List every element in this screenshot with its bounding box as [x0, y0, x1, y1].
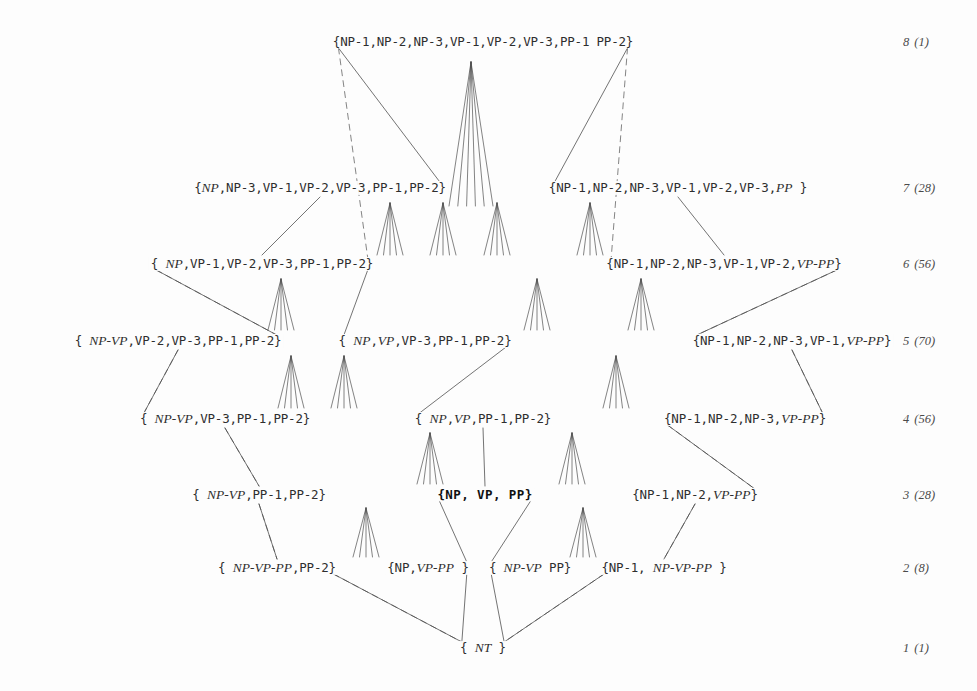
level-label: 6(56) — [903, 257, 935, 272]
lattice-edge — [483, 428, 485, 486]
fan-line — [497, 203, 510, 255]
lattice-node: {NP,VP-PP } — [385, 561, 470, 575]
fan-line — [430, 433, 437, 484]
lattice-node: { NT } — [458, 641, 508, 655]
level-number: 2 — [903, 561, 909, 575]
level-count: (28) — [914, 181, 935, 195]
fan-line — [635, 279, 642, 330]
level-number: 6 — [903, 257, 909, 271]
fan-line — [353, 508, 366, 557]
fan-line — [531, 279, 538, 330]
fan-line — [390, 203, 403, 255]
lattice-node: { NP,VP,VP-3,PP-1,PP-2} — [337, 334, 514, 348]
fan-line — [583, 508, 590, 557]
lattice-node: {NP-1,NP-2,NP-3,VP-1,VP-PP} — [691, 334, 894, 348]
fan-line — [590, 203, 597, 255]
fan-line — [390, 203, 397, 255]
lattice-node: { NP-VP,VP-3,PP-1,PP-2} — [138, 412, 312, 426]
level-number: 8 — [903, 35, 909, 49]
fan-line — [583, 508, 596, 557]
fan-bundle-layer — [268, 62, 654, 557]
level-count: (56) — [914, 257, 935, 271]
fan-line — [437, 203, 444, 255]
lattice-node: { NP-VP PP} — [487, 561, 573, 575]
lattice-node: { NP-VP-PP,PP-2} — [216, 561, 338, 575]
fan-line — [268, 279, 281, 330]
lattice-edge — [439, 501, 466, 562]
lattice-edge — [792, 350, 823, 413]
lattice-node: {NP-1,NP-2,VP-PP} — [630, 488, 759, 502]
level-count: (56) — [914, 412, 935, 426]
fan-line — [603, 356, 616, 408]
fan-line — [377, 203, 390, 255]
lattice-edge — [491, 501, 530, 562]
fan-line — [366, 508, 373, 557]
level-label: 1(1) — [903, 641, 929, 656]
fan-line — [366, 508, 379, 557]
lattice-node: { NP,VP-1,VP-2,VP-3,PP-1,PP-2} — [149, 257, 375, 271]
level-count: (1) — [914, 641, 929, 655]
fan-line — [417, 433, 430, 484]
lattice-edge — [338, 48, 439, 182]
level-label: 3(28) — [903, 488, 935, 503]
fan-line — [559, 433, 572, 484]
level-number: 4 — [903, 412, 909, 426]
lattice-edge — [697, 270, 837, 335]
lattice-edge — [225, 428, 259, 486]
lattice-edge — [344, 270, 368, 335]
lattice-node: {NP-1, NP-VP-PP } — [599, 561, 728, 575]
fan-line — [572, 433, 579, 484]
fan-line — [610, 356, 617, 408]
fan-line — [291, 356, 298, 408]
fan-line — [430, 433, 443, 484]
fan-line — [443, 203, 456, 255]
lattice-edge — [144, 350, 178, 413]
lattice-edge — [664, 504, 695, 559]
level-number: 1 — [903, 641, 909, 655]
fan-line — [275, 279, 282, 330]
level-label: 7(28) — [903, 181, 935, 196]
lattice-node: { NP-VP,VP-2,VP-3,PP-1,PP-2} — [73, 334, 284, 348]
fan-line — [577, 508, 584, 557]
fan-line — [572, 433, 585, 484]
fan-line — [616, 356, 623, 408]
lattice-node: {NP-1,NP-2,NP-3,VP-1,VP-2,VP-PP} — [604, 257, 843, 271]
lattice-edge — [504, 574, 604, 642]
level-number: 5 — [903, 334, 909, 348]
fan-line — [497, 203, 504, 255]
level-count: (1) — [914, 35, 929, 49]
fan-line — [570, 508, 583, 557]
fan-line — [616, 356, 629, 408]
lattice-edge — [491, 574, 504, 642]
fan-line — [537, 279, 550, 330]
level-number: 3 — [903, 488, 909, 502]
lattice-node: { NP,VP,PP-1,PP-2} — [413, 412, 553, 426]
level-count: (70) — [914, 334, 935, 348]
fan-line — [430, 203, 443, 255]
fan-line — [577, 203, 590, 255]
fan-line — [628, 279, 641, 330]
level-label: 5(70) — [903, 334, 935, 349]
lattice-edge — [678, 197, 724, 255]
fan-line — [344, 356, 357, 408]
lattice-edge — [462, 574, 467, 642]
fan-line — [424, 433, 431, 484]
fan-line — [291, 356, 304, 408]
level-count: (8) — [914, 561, 929, 575]
fan-line — [641, 279, 648, 330]
lattice-edge — [333, 574, 461, 642]
fan-line — [524, 279, 537, 330]
fan-line — [281, 279, 288, 330]
fan-line — [491, 203, 498, 255]
lattice-diagram: {NP-1,NP-2,NP-3,VP-1,VP-2,VP-3,PP-1 PP-2… — [0, 0, 977, 691]
fan-line — [281, 279, 294, 330]
fan-line — [278, 356, 291, 408]
fan-line — [537, 279, 544, 330]
lattice-edge — [262, 197, 320, 255]
lattice-edge — [420, 347, 507, 413]
fan-line — [331, 356, 344, 408]
fan-line — [641, 279, 654, 330]
fan-line — [338, 356, 345, 408]
lattice-node: { NP-VP,PP-1,PP-2} — [190, 488, 328, 502]
lattice-edge-dashed — [338, 48, 367, 258]
